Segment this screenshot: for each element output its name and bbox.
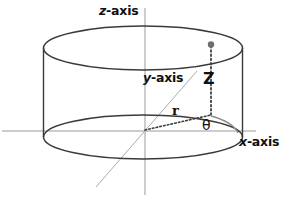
- angle-label: θ: [202, 118, 211, 132]
- x-axis-label: x-axis: [239, 136, 279, 149]
- x-axis-label-suffix: -axis: [247, 134, 279, 149]
- cylinder-bottom-ellipse: [44, 115, 243, 159]
- y-axis-label-suffix: -axis: [151, 70, 183, 85]
- z-axis-label: z-axis: [99, 5, 139, 18]
- z-axis-label-suffix: -axis: [106, 3, 138, 18]
- radius-label: r: [172, 104, 179, 117]
- cylindrical-coordinate-diagram: z-axis y-axis x-axis Z r θ: [0, 0, 283, 203]
- height-label: Z: [203, 71, 215, 87]
- cylinder-top-ellipse: [44, 26, 243, 70]
- y-axis-label: y-axis: [143, 72, 183, 85]
- x-axis-label-variable: x: [239, 134, 247, 149]
- point-marker: [208, 41, 214, 47]
- diagram-canvas: [0, 0, 283, 203]
- y-axis-label-variable: y: [143, 70, 151, 85]
